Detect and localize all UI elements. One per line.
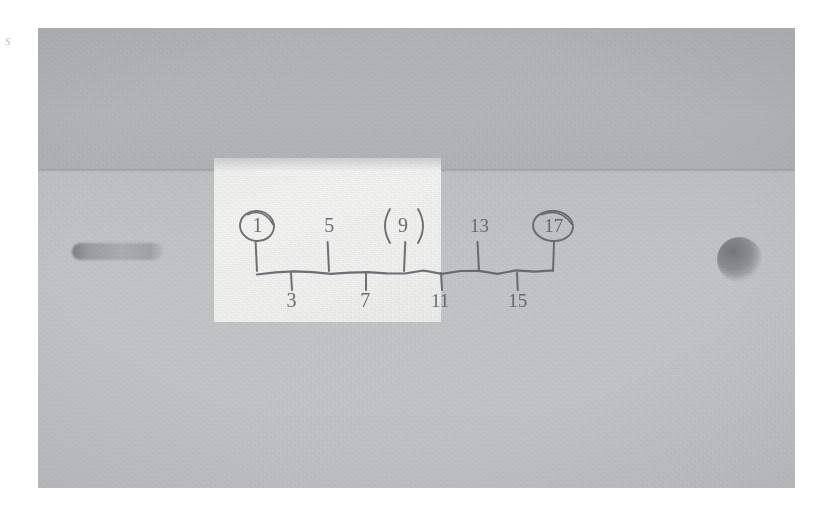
stray-page-mark: s <box>0 29 16 51</box>
surface-upper-band <box>38 28 795 171</box>
slot-shadow <box>72 243 163 260</box>
photograph: 1357911131517 <box>38 28 795 488</box>
white-paper-patch <box>214 158 441 322</box>
round-hole-edge <box>717 237 762 282</box>
screenshot-root: s 1357911131517 <box>0 0 831 506</box>
paper-top-shade <box>214 158 441 171</box>
